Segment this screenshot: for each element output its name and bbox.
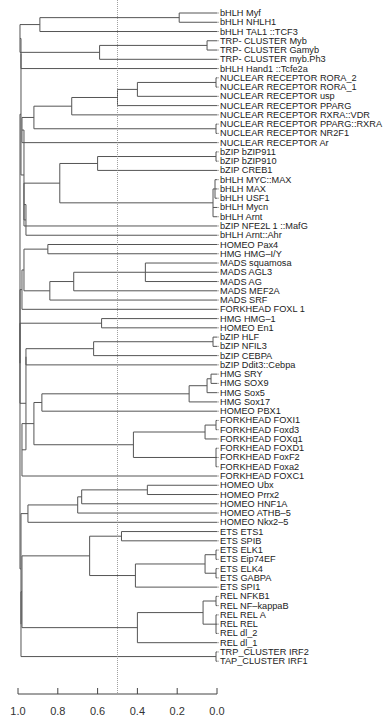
dendrogram-branches xyxy=(20,13,219,661)
x-tick-label: 0.0 xyxy=(209,705,224,717)
x-tick-label: 0.4 xyxy=(130,705,145,717)
x-tick-label: 0.8 xyxy=(50,705,65,717)
x-tick-label: 1.0 xyxy=(10,705,25,717)
x-tick-label: 0.6 xyxy=(90,705,105,717)
x-tick-label: 0.2 xyxy=(170,705,185,717)
leaf-label: TAP_CLUSTER IRF1 xyxy=(220,656,308,666)
